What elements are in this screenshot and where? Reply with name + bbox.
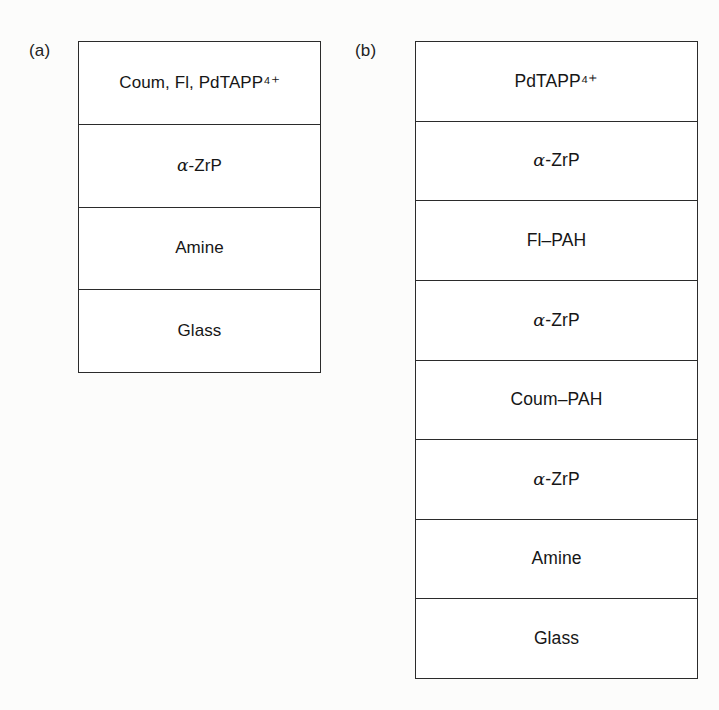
layer-label: Glass bbox=[534, 629, 579, 648]
layer-glass: Glass bbox=[79, 290, 320, 372]
layer-label: α-ZrP bbox=[533, 470, 579, 489]
panel-a-layer-stack: Coum, Fl, PdTAPP⁴⁺ α-ZrP Amine Glass bbox=[78, 41, 321, 373]
layer-fl-pah: Fl–PAH bbox=[416, 201, 697, 281]
layer-pdtapp: PdTAPP⁴⁺ bbox=[416, 42, 697, 122]
layer-label: Amine bbox=[175, 239, 224, 258]
layer-label: Amine bbox=[531, 549, 581, 568]
layer-label: Glass bbox=[178, 322, 222, 341]
layer-label: α-ZrP bbox=[533, 151, 579, 170]
layer-label: PdTAPP⁴⁺ bbox=[514, 72, 598, 91]
layer-zrp-2: α-ZrP bbox=[416, 281, 697, 361]
layer-label: α-ZrP bbox=[177, 156, 222, 176]
panel-a-label: (a) bbox=[29, 41, 50, 61]
layer-label: Fl–PAH bbox=[527, 231, 587, 250]
layer-label: Coum–PAH bbox=[511, 390, 603, 409]
layer-assembly: Coum, Fl, PdTAPP⁴⁺ bbox=[79, 42, 320, 125]
layer-label: α-ZrP bbox=[533, 311, 579, 330]
layer-zrp-3: α-ZrP bbox=[416, 440, 697, 520]
panel-b-layer-stack: PdTAPP⁴⁺ α-ZrP Fl–PAH α-ZrP Coum–PAH α-Z… bbox=[415, 41, 698, 679]
panel-b-label: (b) bbox=[355, 41, 376, 61]
layer-zrp: α-ZrP bbox=[79, 125, 320, 208]
layer-coum-pah: Coum–PAH bbox=[416, 361, 697, 441]
layer-amine: Amine bbox=[416, 520, 697, 600]
layer-amine: Amine bbox=[79, 208, 320, 291]
layer-glass: Glass bbox=[416, 599, 697, 678]
layer-zrp-1: α-ZrP bbox=[416, 122, 697, 202]
layer-label: Coum, Fl, PdTAPP⁴⁺ bbox=[119, 74, 279, 93]
